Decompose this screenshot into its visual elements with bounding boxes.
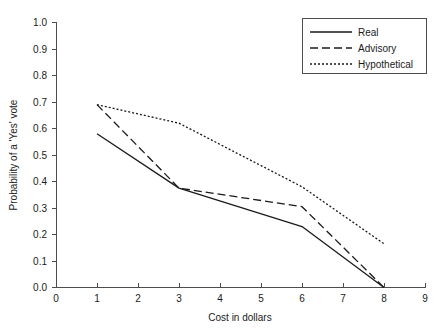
- y-tick-label-9: 0.9: [33, 44, 47, 55]
- x-tick-label-0: 0: [53, 293, 59, 304]
- x-tick-label-4: 4: [217, 293, 223, 304]
- y-tick-label-2: 0.2: [33, 229, 47, 240]
- y-tick-label-5: 0.5: [33, 150, 47, 161]
- y-tick-label-1: 0.1: [33, 256, 47, 267]
- y-tick-label-0: 0.0: [33, 282, 47, 293]
- series-line-real: [97, 134, 384, 288]
- y-tick-label-7: 0.7: [33, 97, 47, 108]
- x-tick-label-5: 5: [258, 293, 264, 304]
- x-tick-label-3: 3: [176, 293, 182, 304]
- legend-label-advisory: Advisory: [358, 43, 396, 54]
- y-tick-label-8: 0.8: [33, 70, 47, 81]
- y-axis-title: Probability of a 'Yes' vote: [8, 99, 19, 210]
- line-chart: 0 1 2 3 4 5 6 7 8 9 0.0 0.1 0.2 0.3 0.4 …: [0, 0, 436, 333]
- y-tick-label-3: 0.3: [33, 203, 47, 214]
- series-line-hypothetical: [97, 105, 384, 244]
- y-tick-label-10: 1.0: [33, 17, 47, 28]
- x-tick-label-6: 6: [299, 293, 305, 304]
- chart-figure: 0 1 2 3 4 5 6 7 8 9 0.0 0.1 0.2 0.3 0.4 …: [0, 0, 436, 333]
- legend-label-hypothetical: Hypothetical: [358, 59, 413, 70]
- series-line-advisory: [97, 105, 384, 288]
- x-tick-label-1: 1: [94, 293, 100, 304]
- x-tick-label-9: 9: [422, 293, 428, 304]
- y-tick-label-6: 0.6: [33, 123, 47, 134]
- x-axis-title: Cost in dollars: [208, 312, 271, 323]
- x-tick-label-8: 8: [381, 293, 387, 304]
- x-axis-ticks: [57, 283, 426, 288]
- chart-legend: Real Advisory Hypothetical: [303, 19, 427, 74]
- legend-label-real: Real: [358, 27, 379, 38]
- x-tick-label-7: 7: [340, 293, 346, 304]
- y-tick-label-4: 0.4: [33, 176, 47, 187]
- y-axis-ticks: [52, 23, 57, 288]
- x-tick-label-2: 2: [135, 293, 141, 304]
